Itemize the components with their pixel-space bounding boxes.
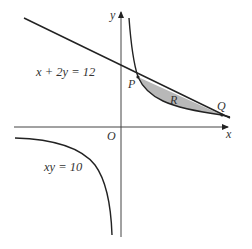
origin-label: O (107, 129, 116, 143)
hyperbola-equation-label: xy = 10 (43, 160, 83, 174)
point-q-label: Q (217, 99, 226, 113)
x-axis-label: x (225, 127, 232, 141)
hyperbola-lower-branch (15, 138, 112, 235)
graph-svg: y x O P Q R x + 2y = 12 xy = 10 (0, 0, 252, 249)
point-q-marker (220, 113, 223, 116)
line-equation-label: x + 2y = 12 (35, 65, 95, 79)
graph-canvas: y x O P Q R x + 2y = 12 xy = 10 (0, 0, 252, 249)
y-axis-label: y (109, 8, 116, 22)
region-r-label: R (169, 93, 178, 107)
point-p-marker (136, 75, 139, 78)
region-r-shading (138, 77, 222, 115)
point-p-label: P (127, 77, 136, 91)
